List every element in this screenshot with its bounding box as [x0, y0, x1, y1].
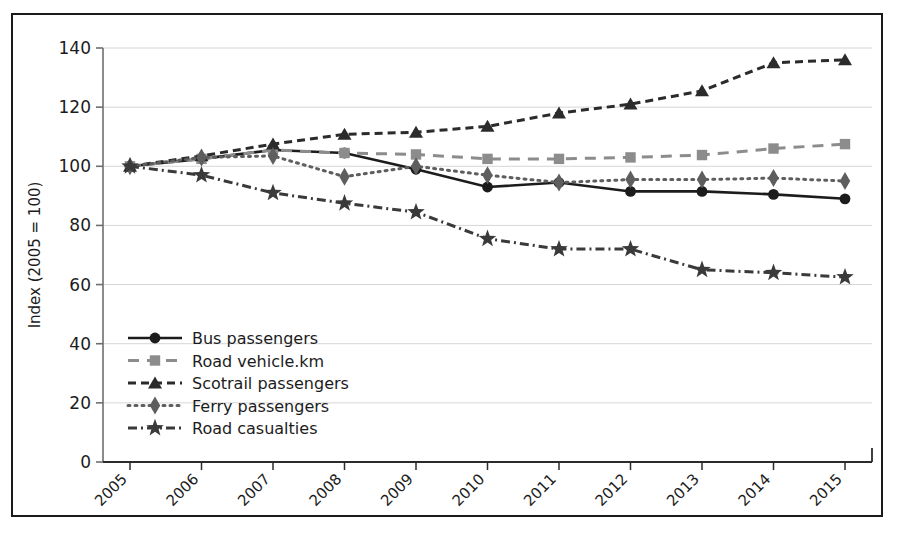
legend-label: Road casualties — [192, 419, 317, 438]
data-point-diamond — [768, 169, 778, 187]
data-point-star — [146, 419, 164, 436]
legend-item[interactable]: Ferry passengers — [128, 397, 329, 416]
x-tick-label: 2010 — [449, 470, 489, 510]
x-axis-ticks: 2005200620072008200920102011201220132014… — [91, 462, 846, 510]
legend-label: Ferry passengers — [192, 397, 329, 416]
chart-figure: 020406080100120140 200520062007200820092… — [0, 0, 899, 536]
data-point-star — [336, 194, 354, 211]
data-point-diamond — [697, 171, 707, 189]
legend-item[interactable]: Road vehicle.km — [128, 352, 324, 371]
y-tick-label: 100 — [59, 156, 91, 176]
data-point-circle — [150, 333, 161, 344]
data-point-square — [625, 152, 635, 162]
data-point-star — [550, 240, 568, 257]
data-point-triangle — [552, 106, 566, 118]
legend-label: Scotrail passengers — [192, 374, 349, 393]
data-point-star — [765, 264, 783, 281]
y-tick-label: 40 — [69, 334, 91, 354]
x-tick-label: 2009 — [377, 470, 417, 510]
data-point-diamond — [625, 171, 635, 189]
chart-legend: Bus passengersRoad vehicle.kmScotrail pa… — [128, 329, 349, 438]
y-axis-ticks: 020406080100120140 — [59, 38, 103, 472]
data-point-star — [836, 268, 854, 285]
data-point-square — [768, 143, 778, 153]
data-point-triangle — [767, 56, 781, 68]
data-point-circle — [840, 193, 851, 204]
data-point-diamond — [482, 166, 492, 184]
x-tick-label: 2013 — [663, 470, 703, 510]
data-point-square — [554, 154, 564, 164]
x-tick-label: 2007 — [234, 470, 274, 510]
x-tick-label: 2012 — [592, 470, 632, 510]
legend-item[interactable]: Road casualties — [128, 419, 317, 438]
data-point-diamond — [150, 397, 160, 415]
data-point-circle — [768, 189, 779, 200]
x-tick-label: 2014 — [735, 470, 775, 510]
line-chart: 020406080100120140 200520062007200820092… — [0, 0, 899, 536]
y-tick-label: 140 — [59, 38, 91, 58]
legend-label: Road vehicle.km — [192, 352, 324, 371]
x-tick-label: 2006 — [163, 470, 203, 510]
data-series-layer — [121, 53, 854, 284]
data-point-star — [479, 230, 497, 247]
y-tick-label: 0 — [80, 452, 91, 472]
y-axis-title: Index (2005 = 100) — [26, 182, 44, 329]
legend-item[interactable]: Scotrail passengers — [128, 374, 349, 393]
x-tick-label: 2005 — [91, 470, 131, 510]
data-point-diamond — [840, 172, 850, 190]
data-point-star — [407, 203, 425, 220]
data-point-square — [482, 154, 492, 164]
data-point-square — [840, 139, 850, 149]
data-point-star — [264, 184, 282, 201]
data-point-diamond — [339, 168, 349, 186]
data-point-square — [339, 148, 349, 158]
data-point-diamond — [554, 174, 564, 192]
x-tick-label: 2011 — [520, 470, 560, 510]
gridlines — [103, 48, 872, 403]
data-point-square — [150, 355, 160, 365]
data-point-star — [693, 261, 711, 278]
y-tick-label: 120 — [59, 97, 91, 117]
data-point-star — [622, 240, 640, 257]
y-tick-label: 60 — [69, 275, 91, 295]
y-tick-label: 80 — [69, 215, 91, 235]
data-point-square — [697, 150, 707, 160]
y-tick-label: 20 — [69, 393, 91, 413]
legend-item[interactable]: Bus passengers — [128, 329, 318, 348]
x-tick-label: 2008 — [306, 470, 346, 510]
x-tick-label: 2015 — [806, 470, 846, 510]
legend-label: Bus passengers — [192, 329, 318, 348]
data-point-star — [193, 166, 211, 183]
